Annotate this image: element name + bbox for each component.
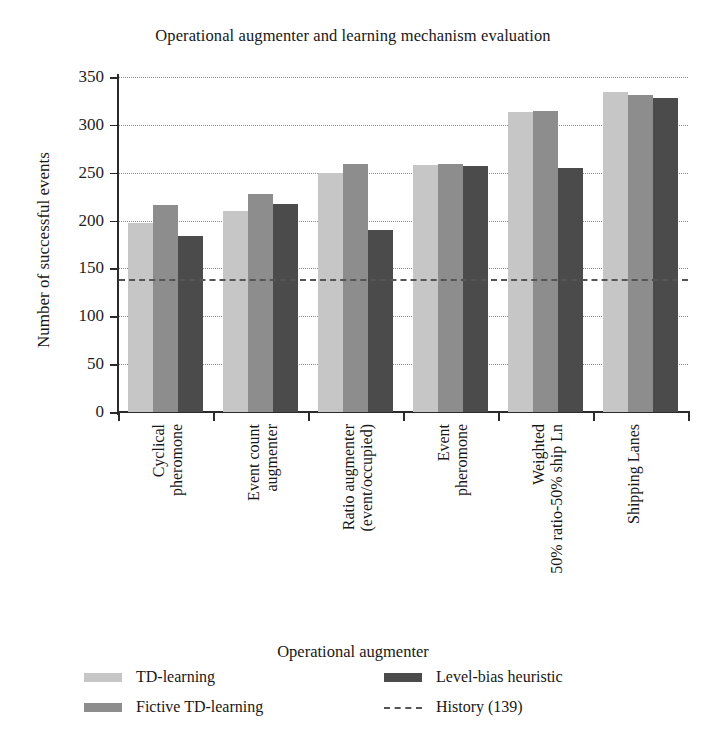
bar-group [318,77,393,412]
bar [653,98,678,412]
y-tick-label: 300 [52,115,104,135]
x-tick [308,412,310,421]
bar [558,168,583,412]
bar-group [508,77,583,412]
y-tick-label: 150 [52,258,104,278]
bar [128,223,153,412]
bar-chart: Operational augmenter and learning mecha… [0,0,706,756]
bar [463,166,488,412]
legend-item[interactable]: TD-learning [84,668,215,686]
bar [533,111,558,413]
y-tick-label: 50 [52,354,104,374]
legend-label: History (139) [436,698,523,716]
bar [603,92,628,412]
legend-swatch-icon [384,673,422,682]
legend-item[interactable]: Level-bias heuristic [384,668,563,686]
y-axis-title: Number of successful events [34,85,54,415]
x-category-label: Event count augmenter [245,424,281,624]
legend-label: Fictive TD-learning [136,698,263,716]
bar-group [413,77,488,412]
x-axis-title: Operational augmenter [0,642,706,662]
legend-swatch-icon [84,673,122,682]
x-tick [118,412,120,421]
y-tick [110,77,118,79]
bar [438,164,463,412]
y-tick-label: 350 [52,67,104,87]
y-tick-label: 0 [52,402,104,422]
y-tick [110,221,118,223]
bar-group [128,77,203,412]
x-tick [213,412,215,421]
y-tick [110,316,118,318]
y-tick [110,173,118,175]
bar [368,230,393,412]
x-tick [498,412,500,421]
bar [413,165,438,412]
bar-group [603,77,678,412]
x-category-label: Cyclical pheromone [150,424,186,624]
x-tick [403,412,405,421]
bar [273,204,298,412]
legend-label: Level-bias heuristic [436,668,563,686]
bar [178,236,203,412]
y-tick [110,364,118,366]
legend-label: TD-learning [136,668,215,686]
bar [508,112,533,412]
legend-swatch-icon [84,703,122,712]
x-category-label: Shipping Lanes [625,424,643,624]
x-category-label: Event pheromone [435,424,471,624]
bar [248,194,273,412]
x-tick [688,412,690,421]
y-tick-label: 100 [52,306,104,326]
bar [628,95,653,412]
x-category-label: Ratio augmenter (event/occupied) [340,424,376,624]
plot-area [118,77,688,412]
y-tick-label: 250 [52,163,104,183]
chart-legend: TD-learningFictive TD-learningLevel-bias… [84,668,684,738]
bar [343,164,368,412]
x-category-label: Weighted 50% ratio-50% ship Ln [530,424,566,624]
y-tick-label: 200 [52,211,104,231]
bar [153,205,178,412]
chart-title: Operational augmenter and learning mecha… [0,26,706,46]
x-tick [593,412,595,421]
y-tick [110,412,118,414]
bar [223,211,248,412]
legend-dashed-line-icon [384,707,422,709]
legend-item[interactable]: History (139) [384,698,523,716]
y-tick [110,268,118,270]
bar-group [223,77,298,412]
legend-item[interactable]: Fictive TD-learning [84,698,263,716]
bar [318,173,343,412]
y-tick [110,125,118,127]
